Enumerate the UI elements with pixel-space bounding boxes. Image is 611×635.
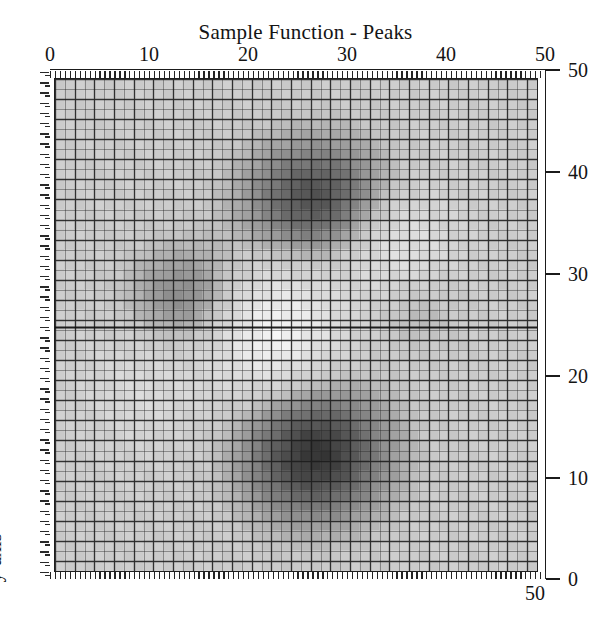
x-tick-label-10: 10 (139, 44, 159, 64)
surface-plot-area (55, 79, 537, 571)
y-tick-label-10: 10 (568, 468, 588, 488)
y-tick-mark-30 (546, 273, 560, 275)
corner-axis-label: 50 (525, 583, 545, 603)
page-title: Sample Function - Peaks (0, 20, 611, 44)
x-tick-label-20: 20 (238, 44, 258, 64)
x-tick-label-30: 30 (337, 44, 357, 64)
y-tick-mark-0 (546, 578, 560, 580)
x-axis-tick-rail-bottom (50, 572, 546, 579)
axis-right-spine (545, 69, 546, 579)
y-tick-mark-40 (546, 171, 560, 173)
y-tick-label-50: 50 (568, 60, 588, 80)
x-tick-label-40: 40 (436, 44, 456, 64)
y-tick-label-20: 20 (568, 366, 588, 386)
peaks-surface-canvas (55, 79, 537, 571)
y-tick-mark-10 (546, 477, 560, 479)
y-tick-mark-20 (546, 375, 560, 377)
y-tick-label-30: 30 (568, 264, 588, 284)
y-tick-label-40: 40 (568, 162, 588, 182)
y-tick-mark-50 (546, 69, 560, 71)
y-axis-label: y-axis (0, 498, 4, 618)
y-axis-tick-rail-left-inner (45, 75, 50, 580)
y-tick-label-0: 0 (568, 569, 578, 589)
figure-panel: Sample Function - Peaks 0 10 20 30 40 50… (0, 0, 611, 635)
x-axis-tick-rail-top (50, 71, 546, 78)
x-tick-label-50: 50 (535, 44, 555, 64)
x-tick-label-0: 0 (45, 44, 55, 64)
